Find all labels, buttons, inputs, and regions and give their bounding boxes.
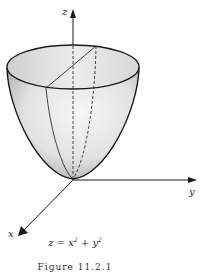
equals-sign: = (53, 237, 68, 248)
exponent-y: 2 (98, 236, 102, 243)
equation: z = x2 + y2 (0, 236, 150, 248)
z-axis-arrow-icon (70, 9, 76, 18)
y-axis-label: y (189, 186, 195, 197)
z-axis-label: z (62, 6, 67, 17)
y-axis-arrow-icon (188, 177, 197, 183)
figure-caption: Figure 11.2.1 (0, 262, 150, 272)
x-axis (24, 180, 73, 230)
plus-sign: + (78, 237, 93, 248)
